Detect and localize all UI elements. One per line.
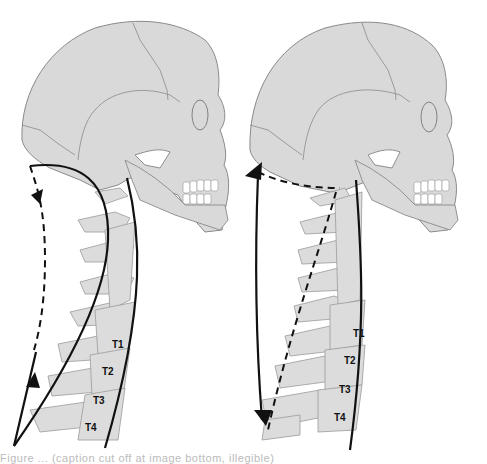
left-vertebrae	[30, 188, 135, 440]
right-orbit	[421, 102, 437, 132]
right-vertical-line	[256, 175, 262, 420]
left-label-t1: T1	[112, 339, 124, 350]
right-panel: T1 T2 T3 T4	[245, 22, 458, 450]
right-label-t2: T2	[344, 355, 356, 366]
left-label-t4: T4	[85, 422, 97, 433]
right-vertebrae	[262, 188, 365, 440]
figure-caption-cutoff: Figure ... (caption cut off at image bot…	[0, 452, 487, 464]
right-label-t4: T4	[334, 412, 346, 423]
left-orbit	[192, 100, 208, 130]
left-up-arrowhead-icon	[26, 372, 40, 388]
right-label-t3: T3	[339, 384, 351, 395]
right-label-t1: T1	[353, 328, 365, 339]
left-label-t3: T3	[93, 395, 105, 406]
right-up-arrowhead-icon	[245, 162, 262, 180]
left-label-t2: T2	[102, 366, 114, 377]
left-panel: T1 T2 T3 T4	[14, 21, 229, 448]
